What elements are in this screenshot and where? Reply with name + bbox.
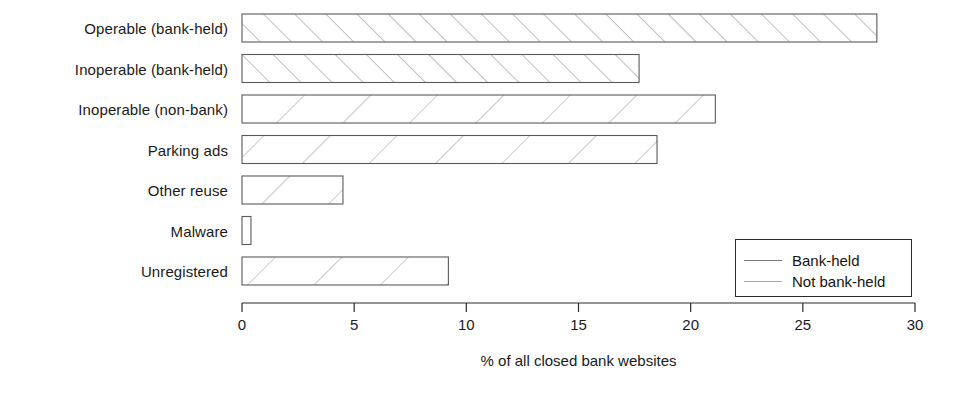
axis-tick-label: 0 [238,317,246,332]
bar [242,257,448,285]
bar-chart: Operable (bank-held)Inoperable (bank-hel… [0,0,957,395]
axis-tick-label: 30 [907,317,924,332]
legend-item-not-bank-held: Not bank-held [744,272,885,290]
legend-label-not-bank-held: Not bank-held [792,274,885,289]
bar [242,14,877,42]
legend-swatch-bank-held-icon [744,260,782,261]
plot-area [0,0,957,395]
legend-label-bank-held: Bank-held [792,253,860,268]
bar [242,217,251,245]
x-axis-title: % of all closed bank websites [242,352,915,369]
axis-tick-label: 5 [350,317,358,332]
bar [242,176,343,204]
axis-tick-label: 25 [794,317,811,332]
x-axis [242,303,915,312]
legend-swatch-not-bank-held-icon [744,281,782,282]
bar [242,55,639,83]
legend-item-bank-held: Bank-held [744,251,860,269]
bar [242,136,657,164]
axis-tick-label: 10 [458,317,475,332]
axis-tick-label: 20 [682,317,699,332]
axis-tick-label: 15 [570,317,587,332]
bar [242,95,715,123]
legend: Bank-held Not bank-held [735,239,912,297]
